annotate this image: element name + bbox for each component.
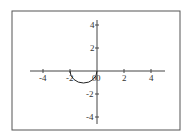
svg-text:-4: -4 [39, 73, 47, 83]
svg-text:4: 4 [149, 73, 154, 83]
svg-text:4: 4 [90, 20, 95, 30]
svg-text:-4: -4 [86, 112, 94, 122]
svg-text:2: 2 [122, 73, 127, 83]
svg-text:-2: -2 [86, 89, 94, 99]
svg-text:2: 2 [90, 43, 95, 53]
plot: -4 -2 0 2 4 4 2 -2 -4 0 [0, 0, 191, 136]
